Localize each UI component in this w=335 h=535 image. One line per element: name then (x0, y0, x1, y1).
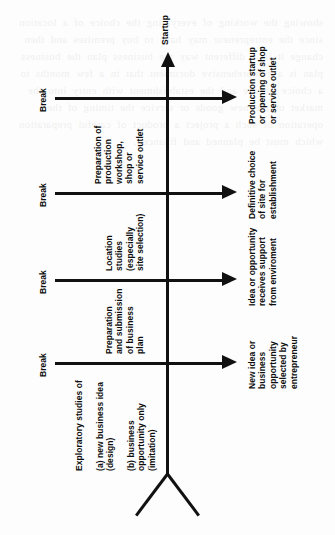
break-arrowhead-1 (222, 355, 237, 369)
break-label-4: Break (38, 88, 48, 112)
flowchart-stage: Break Break Break Break Startup Explorat… (0, 0, 335, 535)
activity-label-business-plan: Preparation and submission of business p… (104, 284, 146, 354)
break-arrow-line-1 (55, 362, 225, 365)
startup-arrowhead (161, 52, 175, 67)
milestone-label-site-chosen: Definitive choice of site for establishm… (247, 119, 278, 219)
break-label-1: Break (38, 353, 48, 377)
break-arrowhead-2 (222, 272, 237, 286)
fork-leg-lower (135, 473, 169, 516)
break-arrow-line-4 (55, 97, 225, 100)
milestone-label-support-received: Idea or opportunity receives support fro… (247, 206, 278, 306)
activity-label-exploratory-studies: Exploratory studies of (a) new business … (74, 371, 157, 471)
diagram-page: showing the working of everything the ch… (0, 0, 335, 535)
break-label-3: Break (38, 183, 48, 207)
break-label-2: Break (38, 270, 48, 294)
startup-label: Startup (160, 15, 170, 45)
activity-label-premises-preparation: Preparation of production workshop, shop… (93, 102, 145, 184)
break-arrow-line-2 (55, 279, 225, 282)
break-arrowhead-3 (222, 185, 237, 199)
milestone-label-production-startup: Production startup or opening of shop or… (247, 14, 278, 124)
break-arrow-line-3 (55, 192, 225, 195)
activity-label-location-studies: Location studies (especially site select… (104, 201, 146, 271)
break-arrowhead-4 (222, 90, 237, 104)
main-timeline-spine (166, 63, 169, 475)
fork-leg-upper (166, 473, 200, 516)
milestone-label-idea-selected: New idea or business opportunity selecte… (247, 299, 299, 389)
